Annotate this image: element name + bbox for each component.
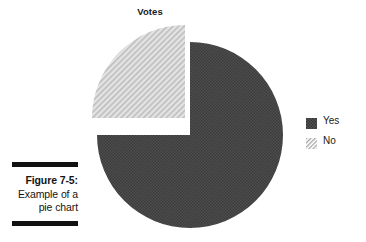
figure-container: Figure 7-5: Example of a pie chart Votes [0, 0, 366, 242]
legend-item-yes: Yes [306, 110, 366, 130]
pie-chart [0, 0, 300, 242]
dark-dotted-swatch-icon [306, 115, 317, 126]
legend-label-yes: Yes [323, 115, 339, 126]
chart-legend: Yes No [306, 110, 366, 150]
legend-item-no: No [306, 130, 366, 150]
light-hatched-swatch-icon [306, 135, 317, 146]
pie-slice-no [92, 25, 185, 118]
legend-label-no: No [323, 135, 336, 146]
pie-chart-svg [0, 0, 300, 242]
